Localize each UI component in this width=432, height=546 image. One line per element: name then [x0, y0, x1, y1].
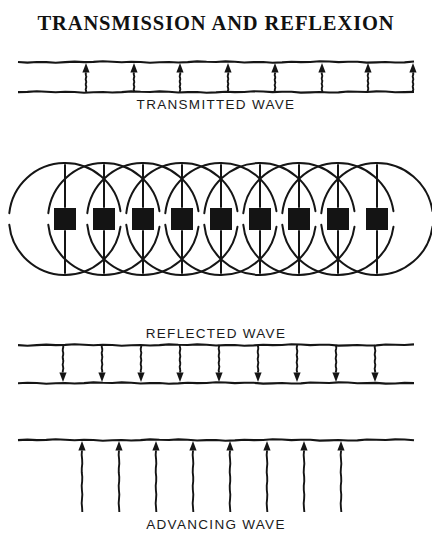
diagram-canvas [0, 0, 432, 546]
reflected-arrow-3-shaft [141, 345, 142, 373]
advancing-wave-label: ADVANCING WAVE [0, 517, 432, 532]
reflected-arrow-1-head [59, 373, 66, 383]
transmitted-arrow-7-head [364, 63, 371, 73]
reflected-wave-panel [18, 344, 414, 384]
transmitted-arrow-8-shaft [413, 73, 414, 93]
transmitted-arrow-2-head [130, 63, 137, 73]
reflected-arrow-9-shaft [375, 345, 376, 373]
transmitted-top-rule [18, 61, 414, 63]
transmitted-arrow-1-head [82, 63, 89, 73]
scatterer-5 [210, 208, 232, 230]
reflected-arrow-4-head [176, 373, 183, 383]
reflected-wave-label: REFLECTED WAVE [0, 326, 432, 341]
transmitted-arrow-6-shaft [322, 73, 323, 93]
advancing-arrow-8-head [337, 441, 344, 451]
advancing-arrow-1-shaft [82, 451, 83, 513]
reflected-arrow-7-head [293, 373, 300, 383]
reflected-arrow-5-shaft [219, 345, 220, 373]
advancing-arrow-1-head [78, 441, 85, 451]
reflected-arrow-5-head [215, 373, 222, 383]
transmitted-arrow-5-shaft [275, 73, 276, 93]
transmitted-wave-panel [18, 61, 417, 93]
advancing-top-rule [18, 439, 414, 441]
transmitted-arrow-2-shaft [134, 73, 135, 93]
transmitted-arrow-7-shaft [368, 73, 369, 93]
reflected-arrow-6-head [254, 373, 261, 383]
transmitted-arrow-4-head [224, 63, 231, 73]
reflected-bottom-rule [18, 382, 414, 384]
figure-title: TRANSMISSION AND REFLEXION [0, 12, 432, 35]
wavelet-construction-panel [9, 163, 432, 275]
transmitted-arrow-6-head [318, 63, 325, 73]
transmitted-wave-label: TRANSMITTED WAVE [0, 97, 432, 112]
reflected-arrow-2-shaft [102, 345, 103, 373]
scatterer-6 [249, 208, 271, 230]
advancing-arrow-3-head [152, 441, 159, 451]
transmitted-arrow-8-head [409, 63, 416, 73]
advancing-arrow-5-shaft [230, 451, 231, 513]
reflected-arrow-9-head [371, 373, 378, 383]
advancing-arrow-6-head [263, 441, 270, 451]
scatterer-3 [132, 208, 154, 230]
advancing-arrow-2-shaft [119, 451, 120, 513]
figure-transmission-and-reflexion: TRANSMISSION AND REFLEXION TRANSMITTED W… [0, 0, 432, 546]
scatterer-8 [327, 208, 349, 230]
scatterer-4 [171, 208, 193, 230]
transmitted-arrow-5-head [271, 63, 278, 73]
scatterer-9 [366, 208, 388, 230]
advancing-arrow-3-shaft [156, 451, 157, 513]
advancing-arrow-7-shaft [304, 451, 305, 513]
reflected-arrow-8-head [332, 373, 339, 383]
scatterer-2 [93, 208, 115, 230]
scatterer-7 [288, 208, 310, 230]
advancing-arrow-8-shaft [341, 451, 342, 513]
reflected-arrow-8-shaft [336, 345, 337, 373]
transmitted-arrow-4-shaft [228, 73, 229, 93]
reflected-arrow-7-shaft [297, 345, 298, 373]
reflected-arrow-2-head [98, 373, 105, 383]
transmitted-arrow-3-shaft [180, 73, 181, 93]
advancing-wave-panel [18, 439, 414, 512]
advancing-arrow-7-head [300, 441, 307, 451]
reflected-arrow-1-shaft [63, 345, 64, 373]
advancing-arrow-4-shaft [193, 451, 194, 513]
reflected-top-rule [18, 344, 414, 346]
reflected-arrow-3-head [137, 373, 144, 383]
transmitted-bottom-rule [18, 91, 414, 93]
reflected-arrow-6-shaft [258, 345, 259, 373]
advancing-arrow-5-head [226, 441, 233, 451]
advancing-arrow-4-head [189, 441, 196, 451]
transmitted-arrow-1-shaft [86, 73, 87, 93]
transmitted-arrow-3-head [176, 63, 183, 73]
scatterer-1 [54, 208, 76, 230]
advancing-arrow-6-shaft [267, 451, 268, 513]
advancing-arrow-2-head [115, 441, 122, 451]
reflected-arrow-4-shaft [180, 345, 181, 373]
